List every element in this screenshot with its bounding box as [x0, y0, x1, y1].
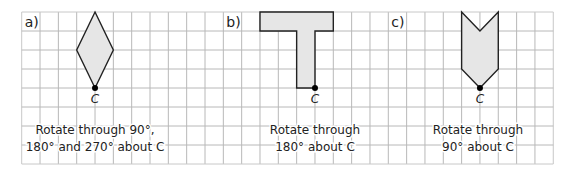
center-point-label: C	[91, 92, 100, 106]
center-point-dot	[92, 85, 98, 91]
rotation-worksheet: Ca)Rotate through 90°,180° and 270° abou…	[0, 0, 567, 173]
center-point-dot	[477, 85, 483, 91]
instruction-line: Rotate through 90°,	[35, 123, 154, 137]
instruction-line: 180° about C	[275, 140, 355, 154]
part-label: b)	[226, 14, 240, 30]
instruction-line: Rotate through	[433, 123, 523, 137]
center-point-label: C	[311, 92, 320, 106]
shapes	[77, 12, 499, 91]
center-point-dot	[312, 85, 318, 91]
part-label: a)	[25, 14, 39, 30]
instruction-line: Rotate through	[270, 123, 360, 137]
instruction-line: 180° and 270° about C	[26, 140, 165, 154]
part-label: c)	[391, 14, 404, 30]
rhombus-shape	[77, 12, 114, 88]
center-point-label: C	[476, 92, 485, 106]
instruction-line: 90° about C	[442, 140, 514, 154]
